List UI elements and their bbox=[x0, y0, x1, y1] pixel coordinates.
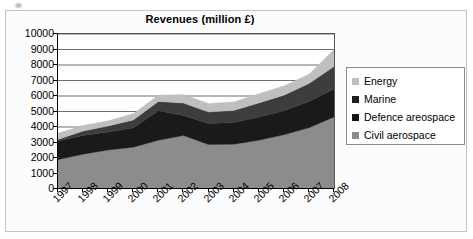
y-axis-tick-label: 1000 bbox=[2, 167, 54, 178]
y-axis-tick-label: 2000 bbox=[2, 152, 54, 163]
y-axis-tick-label: 6000 bbox=[2, 90, 54, 101]
y-axis-tick-label: 10000 bbox=[2, 28, 54, 39]
y-axis-tick-label: 3000 bbox=[2, 136, 54, 147]
chart-legend: EnergyMarineDefence areospaceCivil aeros… bbox=[346, 67, 465, 145]
y-axis: 0100020003000400050006000700080009000100… bbox=[0, 0, 54, 239]
area-chart-svg bbox=[58, 34, 334, 189]
legend-item: Civil aerospace bbox=[352, 127, 464, 144]
legend-label: Marine bbox=[364, 94, 396, 105]
y-axis-tick-label: 8000 bbox=[2, 59, 54, 70]
legend-item: Marine bbox=[352, 91, 464, 108]
y-axis-tick-label: 7000 bbox=[2, 74, 54, 85]
legend-label: Defence areospace bbox=[364, 112, 455, 123]
legend-swatch-icon bbox=[352, 132, 359, 139]
legend-label: Energy bbox=[364, 76, 397, 87]
legend-swatch-icon bbox=[352, 78, 359, 85]
y-axis-tick-label: 5000 bbox=[2, 105, 54, 116]
chart-figure: Revenues (million £) 0100020003000400050… bbox=[0, 0, 473, 239]
legend-swatch-icon bbox=[352, 114, 359, 121]
y-axis-tick-label: 4000 bbox=[2, 121, 54, 132]
y-axis-tick-label: 9000 bbox=[2, 43, 54, 54]
legend-item: Energy bbox=[352, 73, 464, 90]
chart-title: Revenues (million £) bbox=[60, 13, 340, 25]
legend-label: Civil aerospace bbox=[364, 130, 436, 141]
legend-swatch-icon bbox=[352, 96, 359, 103]
plot-area bbox=[57, 33, 335, 189]
legend-item: Defence areospace bbox=[352, 109, 464, 126]
y-axis-tick-label: 0 bbox=[2, 183, 54, 194]
